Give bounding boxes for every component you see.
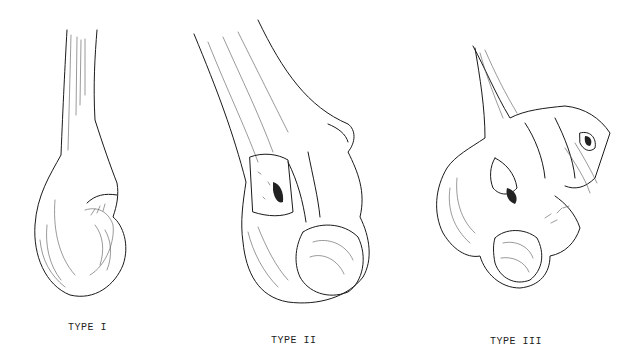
- figure-type-1-drawing: [25, 25, 135, 305]
- figure-type-2-drawing: [188, 12, 388, 312]
- fracture-types-illustration: TYPE I TYPE II: [0, 0, 637, 357]
- type-2-label: TYPE II: [271, 335, 317, 346]
- type-3-label: TYPE III: [490, 336, 542, 347]
- figure-type-3-drawing: [425, 38, 625, 298]
- type-1-label: TYPE I: [68, 322, 107, 333]
